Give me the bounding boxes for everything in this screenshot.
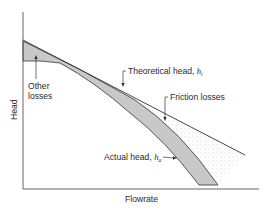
theoretical-head-pointer xyxy=(123,71,126,84)
y-axis-label: Head xyxy=(9,99,19,120)
other-losses-label-line1: Other xyxy=(28,81,50,91)
head-flowrate-diagram: Other losses Theoretical head, hi Fricti… xyxy=(0,0,270,213)
actual-head-pointer xyxy=(163,157,174,158)
theoretical-head-label: Theoretical head, hi xyxy=(128,66,203,77)
other-losses-label-line2: losses xyxy=(28,91,52,101)
actual-head-label: Actual head, ha xyxy=(104,152,161,163)
other-losses-region xyxy=(23,41,218,185)
arrowhead-icon xyxy=(121,83,124,87)
friction-losses-label: Friction losses xyxy=(170,92,225,102)
x-axis-label: Flowrate xyxy=(125,194,158,204)
